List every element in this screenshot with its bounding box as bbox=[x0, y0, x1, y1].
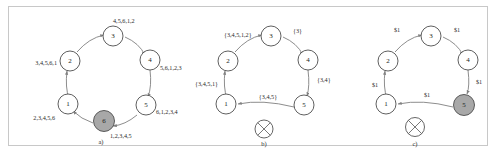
panel-b: 2 3 4 5 1 bbox=[167, 7, 333, 147]
edge-label-2-3: 4,5,6,1,2 bbox=[113, 17, 135, 24]
panel-a-graph: 2 3 4 5 6 bbox=[9, 7, 175, 147]
node-2-label: 2 bbox=[386, 57, 390, 65]
node-5-label: 5 bbox=[302, 101, 306, 109]
panel-a-caption: a) bbox=[98, 138, 103, 146]
failed-node-6: 6 bbox=[406, 118, 425, 137]
node-3[interactable]: 3 bbox=[421, 26, 441, 46]
edge-4-5 bbox=[307, 70, 309, 96]
node-1[interactable]: 1 bbox=[58, 94, 78, 114]
node-4[interactable]: 4 bbox=[458, 50, 478, 70]
edge-label-2-3: $1 bbox=[394, 26, 400, 33]
edge-label-1-2: 3,4,5,6,1 bbox=[35, 59, 57, 66]
edge-4-5 bbox=[148, 70, 151, 97]
edge-label-6-1: 2,3,4,5,6 bbox=[33, 114, 55, 121]
edge-label-1-2: {3,4,5,1} bbox=[195, 80, 218, 88]
edge-label-4-5: $1 bbox=[476, 78, 482, 85]
node-5[interactable]: 5 bbox=[454, 95, 475, 116]
node-4[interactable]: 4 bbox=[140, 50, 160, 70]
edge-label-3-4: {3} bbox=[293, 27, 302, 35]
node-1[interactable]: 1 bbox=[376, 94, 396, 114]
node-4[interactable]: 4 bbox=[298, 50, 318, 70]
node-2[interactable]: 2 bbox=[218, 51, 238, 71]
node-2-label: 2 bbox=[226, 57, 230, 65]
node-1[interactable]: 1 bbox=[216, 94, 236, 114]
node-5-label: 5 bbox=[144, 101, 148, 109]
edge-2-3 bbox=[235, 35, 262, 52]
edge-label-3-4: $1 bbox=[454, 26, 460, 33]
node-6-label: 6 bbox=[102, 117, 106, 125]
edge-3-4 bbox=[283, 37, 303, 55]
edge-3-4 bbox=[125, 37, 145, 55]
edge-label-2-3: {3,4,5,1,2} bbox=[224, 31, 252, 39]
figure-canvas: 2 3 4 5 6 bbox=[0, 0, 498, 163]
panel-c: 2 3 4 5 1 bbox=[327, 7, 493, 147]
edge-2-3 bbox=[395, 35, 422, 52]
node-1-label: 1 bbox=[66, 100, 70, 108]
node-2[interactable]: 2 bbox=[60, 51, 80, 71]
node-1-label: 1 bbox=[224, 100, 228, 108]
panel-c-caption: c) bbox=[412, 140, 417, 148]
edge-5-1 bbox=[398, 102, 453, 107]
node-4-label: 4 bbox=[306, 56, 310, 64]
node-5[interactable]: 5 bbox=[294, 95, 314, 115]
node-5-label: 5 bbox=[462, 101, 466, 109]
edge-5-6 bbox=[113, 115, 137, 126]
edge-label-5-1: $1 bbox=[424, 91, 430, 98]
panel-b-graph: 2 3 4 5 1 bbox=[167, 7, 333, 147]
node-3-label: 3 bbox=[269, 32, 273, 40]
failed-node-6: 6 bbox=[255, 120, 273, 138]
edge-label-5-6: 1,2,3,4,5 bbox=[110, 132, 132, 139]
edge-label-5-1: {3,4,5} bbox=[259, 93, 277, 101]
edge-3-4 bbox=[443, 37, 463, 55]
node-2-label: 2 bbox=[68, 57, 72, 65]
panel-b-caption: b) bbox=[261, 140, 266, 148]
node-3-label: 3 bbox=[111, 32, 115, 40]
node-1-label: 1 bbox=[384, 100, 388, 108]
node-4-label: 4 bbox=[148, 56, 152, 64]
node-3[interactable]: 3 bbox=[103, 26, 123, 46]
edge-6-1 bbox=[73, 111, 93, 123]
node-2[interactable]: 2 bbox=[378, 51, 398, 71]
panel-c-graph: 2 3 4 5 1 bbox=[327, 7, 493, 147]
panel-a: 2 3 4 5 6 bbox=[9, 7, 175, 147]
node-5[interactable]: 5 bbox=[136, 95, 156, 115]
node-3[interactable]: 3 bbox=[261, 26, 281, 46]
node-4-label: 4 bbox=[466, 56, 470, 64]
node-6[interactable]: 6 bbox=[94, 111, 115, 132]
edge-5-1 bbox=[238, 102, 294, 107]
edge-label-1-2: $1 bbox=[372, 81, 378, 88]
edge-4-5 bbox=[467, 70, 469, 94]
edge-2-3 bbox=[77, 35, 104, 52]
node-3-label: 3 bbox=[429, 32, 433, 40]
figure-frame: 2 3 4 5 6 bbox=[8, 6, 488, 146]
